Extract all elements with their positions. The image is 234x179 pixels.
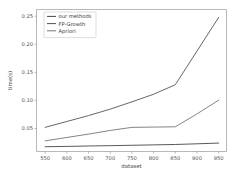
x-tick-labels: 550600650700750800850900950 [40,155,223,161]
x-tick-label: 600 [62,155,72,161]
x-tick-label: 650 [84,155,94,161]
legend-label-1: FP-Growth [59,21,86,27]
x-tick-label: 800 [149,155,159,161]
x-tick-label: 700 [105,155,115,161]
legend-label-2: Apriori [59,28,76,35]
x-tick-label: 550 [40,155,50,161]
y-tick-label: 0.05 [21,125,33,131]
x-tick-label: 950 [214,155,224,161]
y-axis-label: time(s) [7,71,13,90]
chart-figure: 0.050.100.150.200.25 5506006507007508008… [0,0,234,179]
legend-label-0: our methods [59,13,92,19]
x-tick-label: 900 [192,155,202,161]
y-tick-label: 0.25 [21,13,33,19]
x-tick-label: 750 [127,155,137,161]
figure-background [0,0,234,179]
chart-legend: our methodsFP-GrowthApriori [44,12,96,38]
line-chart: 0.050.100.150.200.25 5506006507007508008… [0,0,234,179]
x-tick-label: 850 [170,155,180,161]
y-tick-label: 0.20 [21,41,33,47]
y-tick-label: 0.15 [21,69,33,75]
x-axis-label: dataset [121,163,141,169]
y-tick-label: 0.10 [21,97,33,103]
